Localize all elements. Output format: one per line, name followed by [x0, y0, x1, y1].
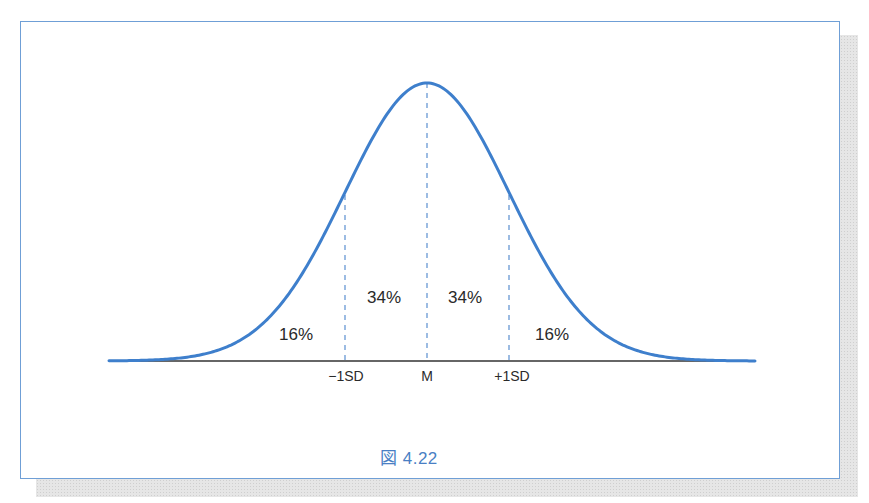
tick-plus-1sd: +1SD: [494, 368, 529, 384]
label-right-center: 34%: [448, 288, 482, 308]
label-left-tail: 16%: [279, 325, 313, 345]
label-left-center: 34%: [367, 288, 401, 308]
figure-caption: 図 4.22: [380, 444, 438, 469]
tick-minus-1sd: −1SD: [328, 368, 363, 384]
bell-curve-chart: [0, 0, 869, 503]
label-right-tail: 16%: [535, 325, 569, 345]
normal-curve: [109, 83, 755, 361]
tick-mean: M: [421, 368, 433, 384]
